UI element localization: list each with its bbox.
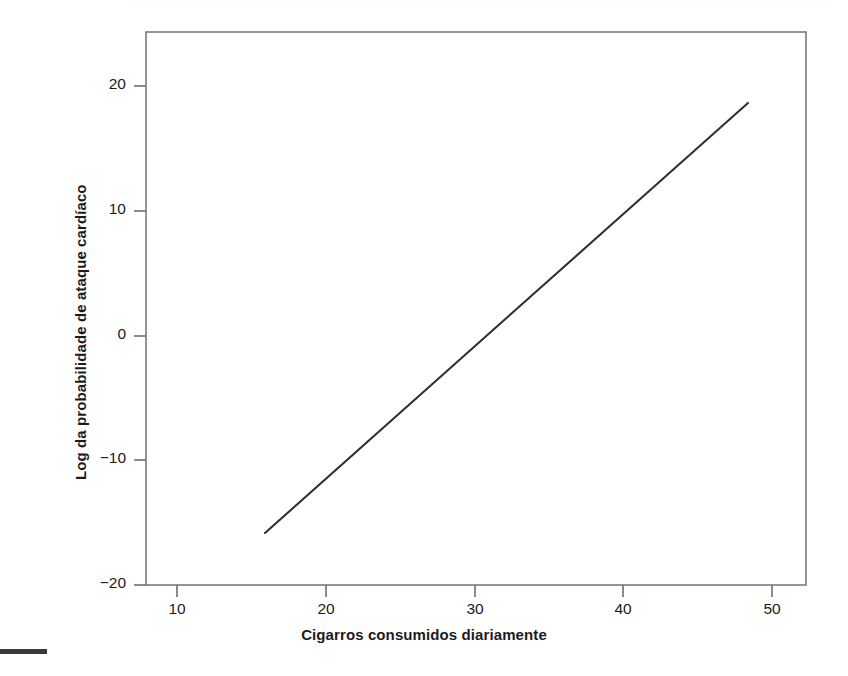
x-axis-ticks [177, 585, 772, 597]
x-tick-label-30: 30 [445, 600, 505, 618]
x-tick-label-50: 50 [742, 600, 802, 618]
figure-canvas: 10 20 30 40 50 20 10 0 −10 −20 Cigarros … [0, 0, 848, 676]
chart-plot-svg [0, 0, 848, 676]
x-tick-label-10: 10 [147, 600, 207, 618]
y-tick-label-20: 20 [66, 75, 126, 93]
x-axis-title: Cigarros consumidos diariamente [0, 626, 848, 643]
y-axis-title: Log da probabilidade de ataque cardíaco [72, 184, 89, 480]
x-tick-label-40: 40 [593, 600, 653, 618]
x-tick-label-20: 20 [296, 600, 356, 618]
y-axis-ticks [134, 86, 146, 585]
plot-area-frame [146, 32, 806, 585]
y-tick-label-neg20: −20 [66, 574, 126, 592]
